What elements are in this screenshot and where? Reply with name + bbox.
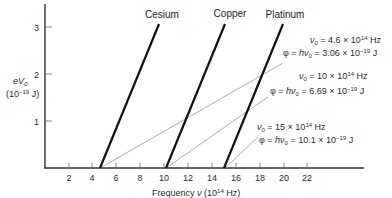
svg-text:14: 14 [207, 173, 217, 183]
platinum-label: Platinum [266, 9, 305, 20]
platinum-line [224, 24, 283, 168]
svg-text:22: 22 [302, 173, 312, 183]
cesium-line [100, 24, 159, 168]
svg-text:φ = hν0 = 3.06 × 10−19 J: φ = hν0 = 3.06 × 10−19 J [283, 48, 377, 59]
cesium-annotation: ν0 = 4.6 × 1014 Hz φ = hν0 = 3.06 × 10−1… [283, 35, 382, 59]
cesium-leader-line [100, 63, 283, 168]
copper-line [166, 24, 225, 168]
leader-lines [100, 63, 283, 168]
y-tick-label: 3 [34, 23, 39, 33]
cesium-label: Cesium [145, 9, 179, 20]
svg-text:16: 16 [231, 173, 241, 183]
svg-text:eV0: eV0 [13, 76, 28, 87]
svg-text:10: 10 [159, 173, 169, 183]
x-tick-labels: 2 4 6 8 10 12 14 16 18 20 22 [66, 173, 312, 183]
y-ticks: 3 2 1 [34, 23, 52, 127]
svg-text:6: 6 [113, 173, 118, 183]
svg-text:18: 18 [255, 173, 265, 183]
platinum-annotation: ν0 = 15 × 1014 Hz φ = hν0 = 10.1 × 10−19… [257, 122, 353, 146]
copper-annotation: ν0 = 10 × 1014 Hz φ = hν0 = 6.69 × 10−19… [270, 71, 368, 97]
svg-text:20: 20 [279, 173, 289, 183]
copper-label: Copper [214, 8, 247, 19]
svg-text:2: 2 [66, 173, 71, 183]
svg-text:φ = hν0 = 10.1 × 10−19 J: φ = hν0 = 10.1 × 10−19 J [259, 135, 353, 146]
y-tick-label: 1 [34, 117, 39, 127]
svg-text:8: 8 [137, 173, 142, 183]
svg-text:(10−19 J): (10−19 J) [6, 89, 39, 99]
svg-text:12: 12 [183, 173, 193, 183]
svg-text:ν0 = 10 × 1014 Hz: ν0 = 10 × 1014 Hz [299, 71, 368, 82]
photoelectric-chart: 3 2 1 eV0 (10−19 J) 2 4 6 8 10 12 14 16 … [0, 0, 392, 198]
y-tick-label: 2 [34, 70, 39, 80]
svg-text:4: 4 [89, 173, 94, 183]
svg-text:φ = hν0 = 6.69 × 10−19 J: φ = hν0 = 6.69 × 10−19 J [270, 86, 364, 97]
svg-text:ν0 = 15 × 1014 Hz: ν0 = 15 × 1014 Hz [257, 122, 326, 133]
svg-text:ν0 = 4.6 × 1014 Hz: ν0 = 4.6 × 1014 Hz [310, 35, 382, 46]
x-axis-label: Frequency ν (1014 Hz) [152, 188, 240, 198]
